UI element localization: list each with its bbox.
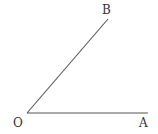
ray-ob	[27, 19, 108, 113]
label-o: O	[13, 116, 23, 130]
label-a: A	[138, 116, 148, 130]
label-b: B	[102, 3, 111, 17]
angle-diagram: O A B	[0, 0, 158, 134]
angle-svg: O A B	[0, 0, 158, 134]
